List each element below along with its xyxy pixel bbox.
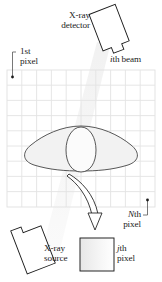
ith-beam-text: th beam	[112, 54, 141, 64]
nth-pixel-label: Nth pixel	[108, 209, 141, 229]
nth-pixel-line2: pixel	[108, 219, 141, 229]
jth-pixel-suffix: th	[119, 243, 126, 253]
source-label-line2: source	[44, 253, 67, 263]
jth-pixel-line1: jth	[117, 243, 135, 253]
source-label-line1: X-ray	[44, 243, 67, 253]
first-pixel-label: 1st pixel	[20, 46, 38, 66]
jth-pixel-line2: pixel	[117, 253, 135, 263]
jth-pixel-label: jth pixel	[117, 243, 135, 263]
nth-pixel-suffix: th	[134, 209, 141, 219]
detector-label: X-ray detector	[52, 10, 90, 30]
jth-pixel-box[interactable]	[80, 238, 114, 271]
first-pixel-line2: pixel	[20, 56, 38, 66]
xray-tomography-diagram	[0, 0, 162, 282]
ith-beam-label: ith beam	[110, 54, 141, 64]
detector-label-line2: detector	[52, 20, 90, 30]
inner-organ	[66, 127, 96, 172]
detector-label-line1: X-ray	[52, 10, 90, 20]
source-label: X-ray source	[44, 243, 67, 263]
nth-pixel-line1: Nth	[108, 209, 141, 219]
first-pixel-line1: 1st	[20, 46, 38, 56]
figure-caption-fragment	[0, 272, 162, 282]
